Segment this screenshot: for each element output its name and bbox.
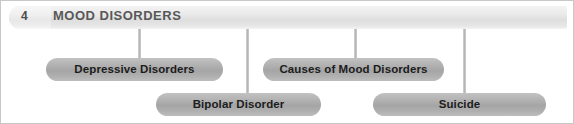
chapter-number: 4 [21,9,41,23]
topic-node-label: Depressive Disorders [74,63,194,76]
topic-node-label: Bipolar Disorder [193,98,285,111]
topic-node-label: Causes of Mood Disorders [279,63,427,76]
connector-line [138,29,141,58]
topic-node[interactable]: Causes of Mood Disorders [263,58,444,81]
chapter-outline-diagram: 4 MOOD DISORDERS Depressive DisordersCau… [0,0,574,124]
topic-node[interactable]: Suicide [373,93,546,116]
topic-node[interactable]: Bipolar Disorder [156,93,321,116]
chapter-title: MOOD DISORDERS [53,9,181,23]
connector-line [246,29,249,93]
topic-node-label: Suicide [439,98,481,111]
connector-line [354,29,357,58]
topic-node[interactable]: Depressive Disorders [46,58,223,81]
connector-line [463,29,466,93]
